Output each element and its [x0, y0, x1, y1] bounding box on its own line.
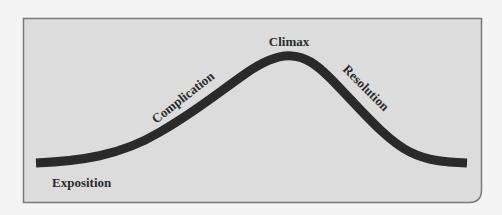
- label-exposition: Exposition: [52, 175, 112, 190]
- label-climax: Climax: [269, 34, 310, 49]
- plot-diagram: Exposition Complication Climax Resolutio…: [0, 0, 502, 215]
